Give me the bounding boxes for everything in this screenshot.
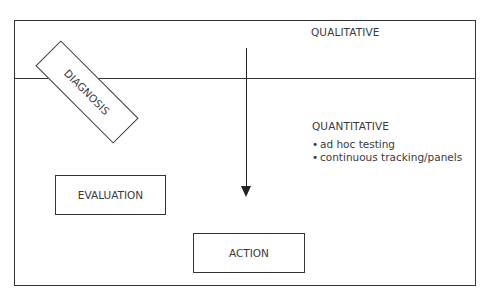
bullet-icon: • — [312, 138, 320, 151]
list-item: •continuous tracking/panels — [312, 151, 462, 164]
quantitative-label: QUANTITATIVE — [312, 120, 389, 132]
action-box: ACTION — [193, 233, 305, 273]
quantitative-methods-list: •ad hoc testing •continuous tracking/pan… — [312, 138, 462, 164]
bullet-icon: • — [312, 151, 320, 164]
list-item: •ad hoc testing — [312, 138, 462, 151]
qualitative-label: QUALITATIVE — [311, 26, 379, 38]
arrow-down-icon — [241, 186, 251, 197]
flow-arrow-line — [246, 48, 247, 188]
evaluation-box: EVALUATION — [55, 175, 166, 215]
